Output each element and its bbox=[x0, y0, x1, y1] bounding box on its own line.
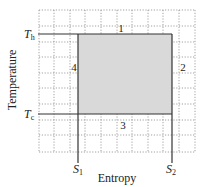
segment-1-label: 1 bbox=[118, 22, 124, 34]
segment-2-label: 2 bbox=[180, 61, 186, 73]
t-cold-label: Tc bbox=[24, 107, 35, 122]
cycle-area bbox=[78, 34, 172, 114]
segment-4-label: 4 bbox=[71, 61, 77, 73]
ts-diagram: 1 2 3 4 Th Tc S1 S2 Entropy Temperature bbox=[0, 0, 207, 187]
segment-3-label: 3 bbox=[120, 119, 126, 131]
s2-label: S2 bbox=[166, 162, 176, 177]
t-hot-label: Th bbox=[24, 27, 35, 42]
x-axis-label: Entropy bbox=[98, 171, 137, 185]
s1-label: S1 bbox=[73, 162, 83, 177]
y-axis-label: Temperature bbox=[5, 50, 19, 110]
